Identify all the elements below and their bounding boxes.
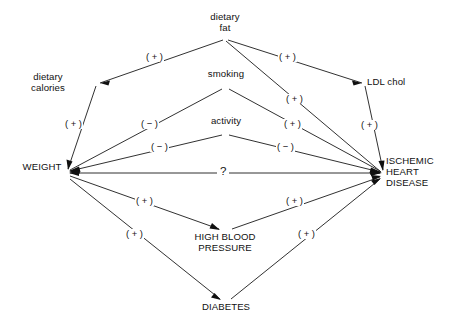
edge-fat-to-ihd bbox=[226, 41, 382, 175]
node-smoking-label: smoking bbox=[208, 68, 244, 79]
edge-smoking-to-ihd bbox=[229, 89, 381, 173]
node-high-blood-pressure-label: HIGH BLOODPRESSURE bbox=[194, 231, 255, 253]
node-activity: activity bbox=[196, 115, 256, 126]
node-diabetes-label: DIABETES bbox=[202, 301, 250, 312]
edge-activity-to-ihd bbox=[229, 135, 381, 175]
edge-label-activity-to-ihd: ( − ) bbox=[276, 142, 295, 152]
edge-label-activity-to-weight: ( − ) bbox=[150, 142, 169, 152]
edge-hbp-to-ihd bbox=[232, 175, 381, 229]
node-weight: WEIGHT bbox=[12, 161, 72, 172]
edge-smoking-to-weight bbox=[69, 89, 222, 172]
edge-label-fat-to-ldl: ( + ) bbox=[278, 52, 297, 62]
arrowhead-icon bbox=[379, 161, 385, 172]
node-dietary-calories-label: dietarycalories bbox=[31, 71, 65, 93]
node-diabetes: DIABETES bbox=[186, 301, 266, 312]
edge-label-smoking-to-weight: ( − ) bbox=[140, 119, 159, 129]
edge-label-diabetes-to-ihd: ( + ) bbox=[297, 229, 316, 239]
node-ldl-chol: LDL chol bbox=[367, 76, 453, 87]
node-ischemic-heart-disease-label: ISCHEMICHEARTDISEASE bbox=[386, 155, 434, 188]
edge-label-weight-to-hbp: ( + ) bbox=[135, 196, 154, 206]
arrowhead-icon bbox=[211, 293, 221, 300]
node-activity-label: activity bbox=[211, 115, 241, 126]
edge-label-fat-to-calories: ( + ) bbox=[145, 52, 164, 62]
diagram-canvas: dietaryfat dietarycalories smoking LDL c… bbox=[0, 0, 458, 331]
node-high-blood-pressure: HIGH BLOODPRESSURE bbox=[178, 231, 272, 253]
edge-label-fat-to-ihd: ( + ) bbox=[285, 94, 304, 104]
node-smoking: smoking bbox=[196, 68, 256, 79]
edge-label-ldl-to-ihd: ( + ) bbox=[360, 120, 379, 130]
node-dietary-calories: dietarycalories bbox=[14, 71, 82, 93]
edge-activity-to-weight bbox=[69, 135, 222, 174]
node-ldl-chol-label: LDL chol bbox=[367, 76, 405, 87]
edge-label-smoking-to-ihd: ( + ) bbox=[283, 119, 302, 129]
edge-label-weight-to-ihd: ? bbox=[217, 165, 229, 177]
node-dietary-fat: dietaryfat bbox=[195, 11, 255, 33]
edge-label-hbp-to-ihd: ( + ) bbox=[285, 196, 304, 206]
node-weight-label: WEIGHT bbox=[23, 161, 62, 172]
node-dietary-fat-label: dietaryfat bbox=[210, 11, 240, 33]
edge-label-weight-to-diabetes: ( + ) bbox=[125, 229, 144, 239]
edge-label-calories-to-weight: ( + ) bbox=[64, 119, 83, 129]
node-ischemic-heart-disease: ISCHEMICHEARTDISEASE bbox=[386, 155, 458, 189]
arrowhead-icon bbox=[210, 223, 221, 230]
